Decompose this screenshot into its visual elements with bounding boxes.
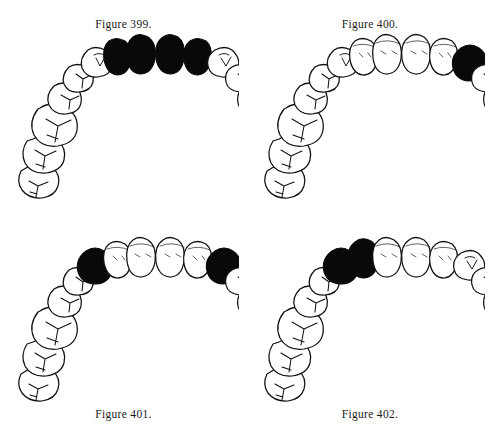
- tooth-right-central-incisor: [126, 34, 155, 74]
- arch-right-quadrant: [18, 34, 155, 198]
- figure-399-caption: Figure 399.: [95, 19, 151, 31]
- tooth-left-central-incisor: [155, 34, 184, 74]
- dental-arch-diagram: [255, 31, 485, 206]
- figure-401: Figure 401.: [0, 219, 247, 437]
- tooth-left-lateral-incisor: [183, 38, 211, 75]
- dental-arch-diagram: [9, 31, 239, 206]
- figure-401-arch-area: [0, 219, 247, 409]
- figure-402: Figure 402.: [247, 219, 493, 437]
- figure-399-arch-area: [0, 31, 247, 220]
- figure-402-caption: Figure 402.: [342, 409, 398, 421]
- arch-left-quadrant: [402, 237, 485, 404]
- arch-right-quadrant: [18, 237, 155, 401]
- dental-arch-diagram: [255, 234, 485, 409]
- arch-left-quadrant: [155, 237, 238, 404]
- dental-arch-diagram: [9, 234, 239, 409]
- arch-left-quadrant: [155, 34, 238, 201]
- figure-401-caption: Figure 401.: [95, 409, 151, 421]
- arch-left-quadrant: [402, 34, 485, 201]
- arch-right-quadrant: [265, 237, 402, 401]
- figure-grid: Figure 399.: [0, 0, 493, 437]
- arch-right-quadrant: [265, 34, 402, 198]
- figure-400: Figure 400.: [247, 0, 493, 219]
- figure-399: Figure 399.: [0, 0, 247, 219]
- figure-402-arch-area: [247, 219, 493, 409]
- figure-400-caption: Figure 400.: [342, 19, 398, 31]
- figure-400-arch-area: [247, 31, 493, 220]
